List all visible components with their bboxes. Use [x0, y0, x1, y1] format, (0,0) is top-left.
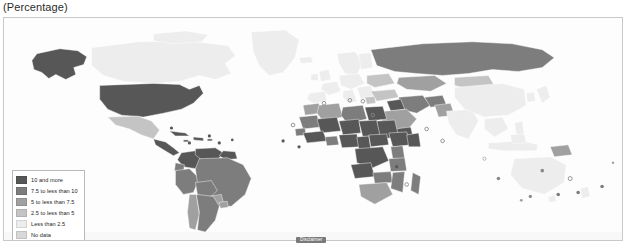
island-marker-dot	[556, 193, 560, 197]
country-borneo	[510, 134, 526, 144]
country-madagascar	[411, 173, 421, 195]
country-egypt	[365, 106, 387, 121]
legend-item[interactable]: No data	[16, 230, 78, 240]
island-marker-dot	[188, 141, 191, 144]
island-marker-dot	[218, 141, 221, 144]
country-philippines	[514, 121, 524, 135]
island-marker-dot	[170, 126, 173, 129]
country-finland	[359, 53, 373, 70]
legend-label: 10 and more	[31, 176, 63, 184]
legend-item[interactable]: 10 and more	[16, 175, 78, 185]
country-greece	[365, 96, 376, 104]
legend-label: No data	[31, 231, 51, 239]
country-canada	[92, 41, 236, 84]
legend-swatch-no-data	[16, 231, 27, 239]
country-puerto-rico	[207, 139, 212, 141]
island-marker-dot	[576, 191, 580, 195]
legend-label: 5 to less than 7.5	[31, 198, 75, 206]
island-marker-dot	[297, 145, 300, 148]
country-jamaica	[183, 140, 188, 142]
country-guinea-coast	[303, 131, 327, 143]
legend-swatch-2-5-to-less-than-5	[16, 209, 27, 217]
legend-swatch-10-and-more	[16, 176, 27, 184]
country-niger	[339, 119, 361, 135]
island-marker-dot	[375, 155, 378, 158]
island-marker-dot	[497, 177, 501, 181]
legend-label: 7.5 to less than 10	[31, 187, 78, 195]
country-mozambique	[391, 172, 405, 193]
disclaimer-button[interactable]: Disclaimer	[296, 237, 326, 243]
country-tanzania	[389, 158, 407, 172]
island-marker-dot	[600, 185, 604, 189]
island-marker-dot	[231, 139, 234, 142]
country-nigeria	[339, 134, 360, 148]
country-ghana	[325, 136, 339, 146]
country-tasmania	[548, 195, 556, 202]
legend-item[interactable]: Less than 2.5	[16, 219, 78, 229]
legend-swatch-7-5-to-less-than-10	[16, 187, 27, 195]
country-united-kingdom	[319, 70, 331, 82]
legend-item[interactable]: 5 to less than 7.5	[16, 197, 78, 207]
legend-label: 2.5 to less than 5	[31, 209, 75, 217]
island-marker-dot	[395, 165, 398, 168]
country-new-zealand	[580, 186, 590, 198]
country-iceland	[299, 57, 313, 64]
legend-swatch-5-to-less-than-7-5	[16, 198, 27, 206]
country-papua-new-guinea	[550, 145, 572, 157]
country-ireland	[311, 74, 318, 81]
country-angola	[351, 163, 375, 179]
country-central-african-republic	[369, 134, 389, 147]
page-title: (Percentage)	[3, 1, 68, 13]
legend-item[interactable]: 2.5 to less than 5	[16, 208, 78, 218]
legend-swatch-less-than-2-5	[16, 220, 27, 228]
legend-label: Less than 2.5	[31, 220, 65, 228]
country-korea	[526, 92, 535, 102]
island-marker-dot	[612, 162, 614, 164]
world-choropleth-map[interactable]: .	[4, 18, 622, 240]
island-marker-dot	[520, 199, 523, 202]
country-zambia	[373, 172, 393, 184]
country-uruguay	[219, 201, 228, 208]
island-marker-dot	[529, 195, 532, 198]
map-legend: 10 and more 7.5 to less than 10 5 to les…	[12, 170, 85, 241]
island-marker-dot	[540, 169, 544, 173]
island-marker-dot	[208, 134, 211, 137]
map-panel: .	[3, 17, 623, 241]
country-somalia	[407, 133, 421, 147]
island-marker-dot	[282, 139, 285, 142]
country-mali	[317, 117, 341, 133]
country-kenya	[391, 146, 405, 159]
legend-item[interactable]: 7.5 to less than 10	[16, 186, 78, 196]
